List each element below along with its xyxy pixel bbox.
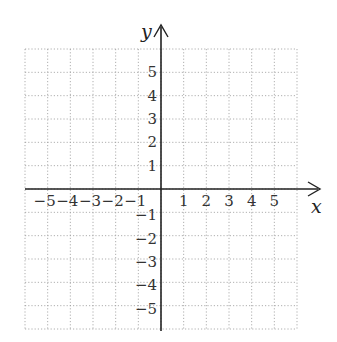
axes: x y bbox=[25, 20, 322, 331]
x-axis-label: x bbox=[311, 195, 322, 217]
y-tick-label: −1 bbox=[135, 206, 157, 224]
y-tick-label: −2 bbox=[135, 230, 157, 248]
x-tick-label: 2 bbox=[202, 192, 212, 210]
x-tick-label: −4 bbox=[56, 192, 78, 210]
x-tick-label: −2 bbox=[102, 192, 124, 210]
y-axis-label: y bbox=[140, 20, 152, 42]
coordinate-plane: x y −5−4−3−2−11234554321−1−2−3−4−5 bbox=[0, 0, 337, 342]
y-tick-label: 4 bbox=[147, 87, 157, 105]
y-tick-label: 2 bbox=[147, 133, 157, 151]
x-tick-label: 5 bbox=[270, 192, 280, 210]
y-tick-label: −4 bbox=[135, 276, 157, 294]
x-tick-label: −3 bbox=[79, 192, 101, 210]
x-tick-label: 1 bbox=[179, 192, 189, 210]
y-tick-label: 3 bbox=[147, 110, 157, 128]
x-tick-label: −5 bbox=[34, 192, 56, 210]
y-tick-label: 1 bbox=[147, 157, 157, 175]
x-tick-label: 4 bbox=[247, 192, 257, 210]
x-tick-label: 3 bbox=[224, 192, 234, 210]
y-tick-label: 5 bbox=[147, 63, 157, 81]
y-tick-label: −5 bbox=[135, 300, 157, 318]
y-tick-label: −3 bbox=[135, 253, 157, 271]
